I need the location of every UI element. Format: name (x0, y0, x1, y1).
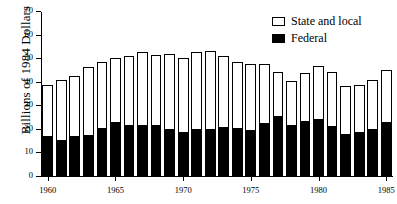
bar-segment-federal-1985 (381, 122, 392, 177)
y-axis-tick-label: 50 (25, 52, 34, 62)
bar-stacked-1975 (245, 64, 256, 177)
bar-segment-federal-1978 (286, 125, 297, 177)
bar-stacked-1968 (151, 55, 162, 177)
bar-stacked-1972 (205, 51, 216, 177)
bar-segment-federal-1964 (97, 128, 108, 178)
bar-stacked-1969 (164, 54, 175, 177)
y-axis-tick-label: 70 (25, 5, 34, 15)
y-axis-tick: 20 (36, 129, 41, 130)
bar-segment-federal-1973 (218, 127, 229, 177)
chart-legend: State and localFederal (272, 13, 362, 47)
bar-stacked-1961 (56, 80, 67, 177)
x-axis-tick (386, 177, 387, 181)
bar-stacked-1979 (300, 73, 311, 177)
bar-stacked-1985 (381, 70, 392, 177)
bar-segment-federal-1960 (42, 136, 53, 177)
bar-segment-federal-1977 (273, 116, 284, 177)
legend-item-state-and-local: State and local (272, 13, 362, 29)
y-axis-tick-label: 60 (25, 29, 34, 39)
y-axis-tick: 30 (36, 105, 41, 106)
bar-segment-federal-1961 (56, 140, 67, 177)
bar-stacked-1978 (286, 81, 297, 177)
bar-stacked-1980 (313, 66, 324, 177)
bar-stacked-1983 (354, 85, 365, 177)
legend-item-label: Federal (291, 31, 327, 46)
bar-segment-federal-1965 (110, 122, 121, 177)
legend-swatch-icon (272, 17, 285, 26)
x-axis-tick (183, 177, 184, 181)
legend-item-label: State and local (291, 14, 362, 29)
bar-stacked-1962 (69, 76, 80, 177)
bar-segment-federal-1981 (327, 126, 338, 177)
bar-stacked-1964 (97, 62, 108, 177)
bar-segment-federal-1968 (151, 125, 162, 177)
y-axis-tick: 0 (36, 176, 41, 177)
legend-swatch-icon (272, 34, 285, 43)
bar-segment-federal-1984 (367, 129, 378, 177)
bar-segment-federal-1975 (245, 130, 256, 177)
x-axis-tick (115, 177, 116, 181)
x-axis-tick-label: 1960 (39, 185, 56, 195)
x-axis-tick-label: 1965 (107, 185, 124, 195)
y-axis-tick: 60 (36, 35, 41, 36)
x-axis-tick-label: 1980 (310, 185, 327, 195)
bar-stacked-1965 (110, 58, 121, 177)
x-axis-tick-label: 1975 (242, 185, 259, 195)
x-axis-tick-label: 1970 (175, 185, 192, 195)
bar-segment-federal-1983 (354, 132, 365, 177)
bar-stacked-1973 (218, 56, 229, 177)
bar-stacked-1971 (191, 52, 202, 177)
bar-stacked-1966 (124, 56, 135, 177)
y-axis-tick: 10 (36, 152, 41, 153)
bar-segment-federal-1963 (83, 135, 94, 177)
bar-stacked-1976 (259, 64, 270, 177)
bar-stacked-1982 (340, 86, 351, 177)
bar-segment-federal-1979 (300, 121, 311, 177)
bar-stacked-1967 (137, 52, 148, 177)
bar-segment-federal-1967 (137, 125, 148, 177)
bar-segment-federal-1982 (340, 134, 351, 177)
bar-stacked-1977 (273, 72, 284, 177)
legend-item-federal: Federal (272, 30, 362, 46)
y-axis-tick-label: 40 (25, 76, 34, 86)
y-axis-tick: 50 (36, 58, 41, 59)
bar-stacked-1960 (42, 85, 53, 177)
y-axis-tick: 70 (36, 11, 41, 12)
bar-stacked-1984 (367, 80, 378, 177)
y-axis-tick-label: 0 (29, 170, 33, 180)
y-axis-tick-label: 10 (25, 146, 34, 156)
y-axis-tick-label: 20 (25, 123, 34, 133)
bar-segment-federal-1972 (205, 129, 216, 177)
bar-segment-federal-1962 (69, 136, 80, 177)
bar-stacked-1981 (327, 72, 338, 177)
bar-segment-federal-1971 (191, 129, 202, 177)
bar-segment-federal-1969 (164, 129, 175, 177)
y-axis-tick-label: 30 (25, 99, 34, 109)
x-axis-tick (48, 177, 49, 181)
bar-stacked-1974 (232, 62, 243, 177)
bar-segment-federal-1974 (232, 128, 243, 177)
bar-segment-federal-1970 (178, 132, 189, 177)
x-axis-tick-label: 1985 (378, 185, 395, 195)
bar-segment-federal-1966 (124, 125, 135, 177)
y-axis-tick: 40 (36, 82, 41, 83)
bar-segment-federal-1980 (313, 119, 324, 177)
chart-container: Billions of 1984 Dollars 010203040506070… (0, 0, 397, 204)
bar-stacked-1963 (83, 67, 94, 177)
bar-segment-federal-1976 (259, 123, 270, 177)
bar-stacked-1970 (178, 58, 189, 177)
x-axis-tick (251, 177, 252, 181)
x-axis-tick (319, 177, 320, 181)
